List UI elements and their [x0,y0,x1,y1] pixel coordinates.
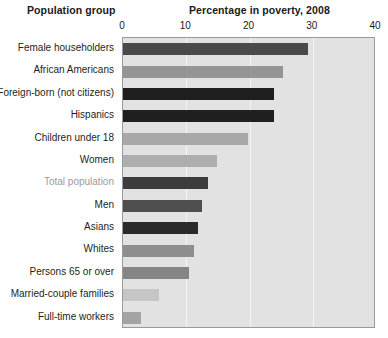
category-label-column: Female householdersAfrican AmericansFore… [0,37,118,328]
category-label: Children under 18 [35,127,115,149]
poverty-bar-chart-figure: Population group Percentage in poverty, … [0,0,388,338]
x-axis-tick-40: 40 [369,20,380,31]
bar [123,110,274,122]
category-label: Female householders [18,37,114,59]
bar [123,133,248,145]
chart-title: Percentage in poverty, 2008 [189,4,330,16]
x-axis-tick-10: 10 [180,20,191,31]
bar [123,312,141,324]
category-label: Married-couple families [11,283,114,305]
category-label: Men [95,194,114,216]
plot-area [122,37,375,328]
x-axis-tick-labels: 010203040 [0,20,388,36]
bar [123,267,189,279]
category-label: Full-time workers [38,306,114,328]
bar-row [123,217,374,239]
bar [123,200,202,212]
x-axis-tick-0: 0 [119,20,125,31]
bar-row [123,172,374,194]
bar [123,245,194,257]
bar-row [123,105,374,127]
bar [123,289,159,301]
bar-row [123,83,374,105]
bar [123,43,308,55]
bar-row [123,128,374,150]
bar [123,66,283,78]
x-axis-tick-30: 30 [306,20,317,31]
bar-row [123,38,374,60]
category-label: Asians [84,216,114,238]
category-label: Persons 65 or over [30,261,115,283]
population-group-header: Population group [27,4,116,16]
category-label: Hispanics [71,104,114,126]
bar [123,88,274,100]
bar-row [123,284,374,306]
bar-row [123,150,374,172]
category-label: African Americans [33,59,114,81]
category-label: Foreign-born (not citizens) [0,82,114,104]
category-label: Whites [83,238,114,260]
x-axis-tick-20: 20 [243,20,254,31]
bar-series [123,38,374,327]
category-label: Total population [44,171,114,193]
bar-row [123,195,374,217]
category-label: Women [80,149,114,171]
bar-row [123,262,374,284]
bar [123,222,198,234]
bar-row [123,60,374,82]
bar [123,155,217,167]
bar [123,177,208,189]
bar-row [123,239,374,261]
bar-row [123,307,374,328]
